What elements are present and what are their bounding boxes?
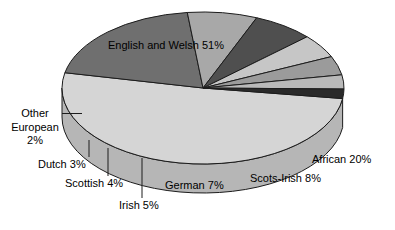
slice-label-scots-irish: Scots-Irish 8%	[250, 172, 321, 185]
slice-label-other-european: Other European 2%	[6, 107, 64, 148]
slice-label-irish: Irish 5%	[119, 199, 159, 212]
slice-label-scottish: Scottish 4%	[65, 177, 123, 190]
slice-label-african: African 20%	[312, 153, 371, 166]
slice-label-german: German 7%	[165, 179, 224, 192]
other-european-line-1: Other	[21, 107, 49, 119]
slice-label-dutch: Dutch 3%	[38, 158, 86, 171]
other-european-line-2: European	[11, 121, 59, 133]
pie-top-faces	[62, 12, 344, 164]
pie-chart-figure: English and Welsh 51% African 20% Scots-…	[0, 0, 395, 230]
slice-label-english-and-welsh: English and Welsh 51%	[108, 39, 224, 52]
other-european-line-3: 2%	[27, 134, 43, 146]
